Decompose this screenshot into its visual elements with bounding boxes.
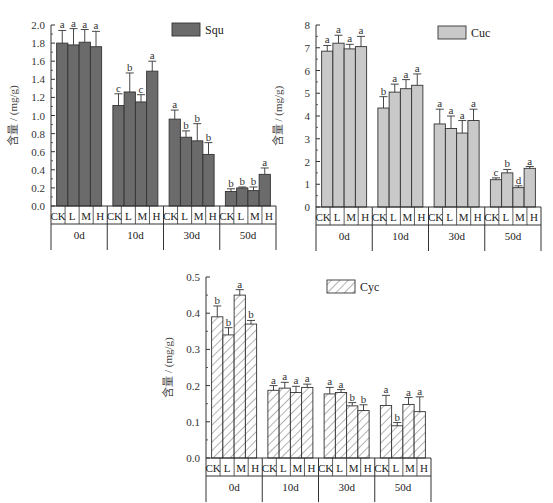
significance-letter: a bbox=[384, 383, 389, 395]
bar bbox=[445, 129, 456, 207]
significance-letter: a bbox=[527, 155, 532, 167]
bar bbox=[234, 295, 245, 458]
bar bbox=[225, 192, 236, 206]
group-label: 10d bbox=[392, 230, 409, 242]
y-tick-label: 0.2 bbox=[31, 182, 45, 194]
significance-letter: c bbox=[494, 166, 499, 178]
bar bbox=[400, 89, 411, 207]
significance-letter: a bbox=[449, 104, 454, 116]
significance-letter: a bbox=[172, 98, 177, 110]
treatment-label: H bbox=[209, 210, 217, 222]
legend-swatch bbox=[172, 23, 200, 36]
y-tick-label: 1.8 bbox=[31, 37, 45, 49]
y-tick-label: 0.0 bbox=[186, 452, 200, 464]
significance-letter: a bbox=[339, 378, 344, 390]
bar bbox=[237, 188, 248, 206]
treatment-label: H bbox=[474, 211, 482, 223]
bar bbox=[90, 47, 101, 206]
legend-swatch bbox=[438, 26, 466, 39]
y-axis-title: 含量 / (mg/g) bbox=[161, 337, 175, 398]
y-tick-label: 0.4 bbox=[186, 307, 200, 319]
treatment-label: M bbox=[515, 211, 525, 223]
treatment-label: L bbox=[390, 211, 397, 223]
group-label: 30d bbox=[338, 481, 355, 493]
treatment-label: CK bbox=[484, 211, 499, 223]
bar bbox=[389, 92, 400, 207]
treatment-label: L bbox=[280, 462, 287, 474]
bar bbox=[502, 173, 513, 207]
legend: Cyc bbox=[327, 280, 379, 294]
bar bbox=[203, 154, 214, 206]
treatment-label: H bbox=[364, 462, 372, 474]
y-tick-label: 0.5 bbox=[186, 271, 200, 283]
significance-letter: a bbox=[71, 17, 76, 29]
treatment-label: CK bbox=[205, 462, 220, 474]
group-label: 30d bbox=[183, 229, 200, 241]
treatment-label: M bbox=[138, 210, 148, 222]
bar bbox=[355, 47, 366, 207]
cuc-chart: 012345678含量 / (mg/g)aaaabaaaaaaacbdaCKLM… bbox=[271, 19, 541, 251]
treatment-label: CK bbox=[315, 211, 330, 223]
treatment-label: M bbox=[459, 211, 469, 223]
significance-letter: c bbox=[139, 83, 144, 95]
bar bbox=[347, 406, 358, 458]
significance-letter: b bbox=[183, 119, 189, 131]
group-label: 0d bbox=[229, 481, 241, 493]
y-tick-label: 0.0 bbox=[31, 200, 45, 212]
group-label: 10d bbox=[282, 481, 299, 493]
significance-letter: a bbox=[406, 386, 411, 398]
treatment-label: CK bbox=[262, 462, 277, 474]
bar bbox=[192, 141, 203, 206]
treatment-label: M bbox=[403, 211, 413, 223]
y-tick-label: 0.4 bbox=[31, 164, 45, 176]
bar bbox=[147, 71, 158, 206]
significance-letter: a bbox=[94, 19, 99, 31]
significance-letter: a bbox=[415, 62, 420, 74]
group-label: 30d bbox=[448, 230, 465, 242]
bar bbox=[333, 43, 344, 207]
treatment-label: M bbox=[346, 211, 356, 223]
treatment-label: M bbox=[405, 462, 415, 474]
y-tick-label: 7 bbox=[305, 42, 311, 54]
bar bbox=[302, 387, 313, 458]
treatment-label: L bbox=[237, 210, 244, 222]
bar bbox=[468, 121, 479, 207]
significance-letter: b bbox=[361, 393, 367, 405]
bar bbox=[434, 124, 445, 207]
y-tick-label: 1.0 bbox=[31, 110, 45, 122]
group-label: 50d bbox=[505, 230, 522, 242]
significance-letter: d bbox=[516, 174, 522, 186]
bar bbox=[245, 324, 256, 458]
significance-letter: b bbox=[228, 177, 234, 189]
y-tick-label: 0.8 bbox=[31, 128, 45, 140]
treatment-label: L bbox=[392, 462, 399, 474]
y-tick-label: 1 bbox=[305, 178, 311, 190]
treatment-label: L bbox=[224, 462, 231, 474]
significance-letter: a bbox=[237, 278, 242, 290]
significance-letter: b bbox=[251, 175, 257, 187]
treatment-label: CK bbox=[318, 462, 333, 474]
y-tick-label: 6 bbox=[305, 65, 311, 77]
y-tick-label: 3 bbox=[305, 133, 311, 145]
y-tick-label: 1.4 bbox=[31, 73, 45, 85]
significance-letter: a bbox=[347, 32, 352, 44]
bar bbox=[513, 188, 524, 207]
treatment-label: H bbox=[420, 462, 428, 474]
significance-letter: b bbox=[215, 294, 221, 306]
group-label: 0d bbox=[339, 230, 351, 242]
y-tick-label: 2 bbox=[305, 156, 311, 168]
significance-letter: c bbox=[116, 82, 121, 94]
significance-letter: a bbox=[404, 68, 409, 80]
bar bbox=[79, 42, 90, 206]
treatment-label: L bbox=[181, 210, 188, 222]
bar bbox=[113, 106, 124, 206]
bar bbox=[380, 406, 391, 458]
treatment-label: CK bbox=[374, 462, 389, 474]
group-label: 50d bbox=[395, 481, 412, 493]
legend-label: Cyc bbox=[360, 280, 379, 294]
y-tick-label: 1.2 bbox=[31, 91, 45, 103]
treatment-label: L bbox=[336, 462, 343, 474]
bar bbox=[124, 92, 135, 206]
significance-letter: a bbox=[305, 372, 310, 384]
y-tick-label: 1.6 bbox=[31, 55, 45, 67]
